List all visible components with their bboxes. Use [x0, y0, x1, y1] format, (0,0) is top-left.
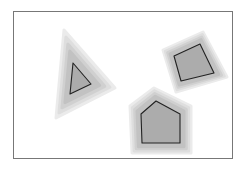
background — [0, 0, 245, 169]
diagram-canvas — [0, 0, 245, 169]
diagram-svg — [0, 0, 245, 169]
